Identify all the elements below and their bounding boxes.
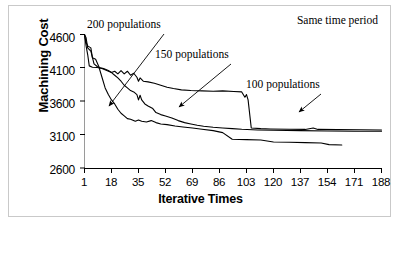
annotation-arrow-layer <box>109 34 321 112</box>
chart-figure: Same time period Machining Cost Iterativ… <box>0 0 403 256</box>
arrow-150-icon <box>179 64 231 107</box>
arrow-200-icon <box>109 34 164 106</box>
series-layer <box>85 35 382 145</box>
series-line-100 <box>85 35 382 130</box>
series-line-200 <box>85 35 342 145</box>
arrow-100-icon <box>299 94 321 112</box>
chart-plot-svg <box>9 6 392 218</box>
chart-frame: Same time period Machining Cost Iterativ… <box>8 5 391 217</box>
series-line-150 <box>85 35 382 132</box>
